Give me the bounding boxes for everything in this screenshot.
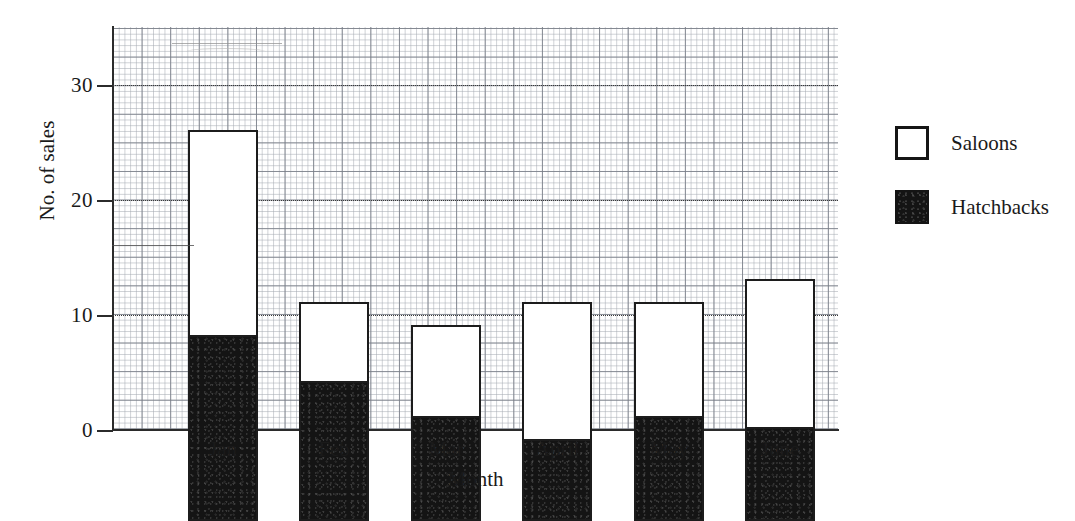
y-axis-title: No. of sales [35,91,60,251]
legend-item-hatchbacks: Hatchbacks [895,190,1049,224]
bar-segment-saloons-april [522,302,592,441]
y-tick-label-10: 10 [55,305,93,326]
guide-line-value-34 [172,43,282,44]
x-axis-title: Month [113,467,838,492]
legend-label-hatchbacks: Hatchbacks [951,195,1049,220]
bar-segment-saloons-feb [299,302,369,383]
bar-segment-saloons-mar [411,325,481,418]
guide-line-value-16 [112,245,194,246]
bar-segment-hatchbacks-jan [188,337,258,521]
x-tick-label-jan: Jan [183,437,263,462]
x-tick-label-april: April [517,437,597,462]
y-tick-0 [97,430,113,432]
x-tick-label-mar: Mar [406,437,486,462]
x-tick-label-june: June [740,437,820,462]
legend-item-saloons: Saloons [895,126,1018,160]
legend-label-saloons: Saloons [951,131,1018,156]
legend-swatch-saloons-icon [895,126,929,160]
x-tick-label-feb: Feb [294,437,374,462]
y-tick-label-20: 20 [55,190,93,211]
gridline-30 [113,85,838,86]
x-tick-label-may: May [629,437,709,462]
bar-chart: 0 10 20 30 No. of sales Jan Feb Mar Apri [0,0,1075,521]
bar-segment-saloons-june [745,279,815,429]
y-tick-label-0: 0 [68,420,93,441]
bar-segment-saloons-may [634,302,704,418]
bar-segment-saloons-jan [188,130,258,337]
legend-swatch-hatchbacks-icon [895,190,929,224]
y-tick-10 [97,315,113,317]
y-tick-20 [97,200,113,202]
y-tick-30 [97,85,113,87]
y-tick-label-30: 30 [55,75,93,96]
guide-line-smudge [186,48,266,55]
